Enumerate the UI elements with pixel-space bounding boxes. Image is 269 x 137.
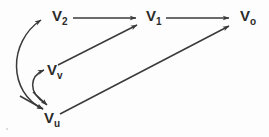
node-vu-base: V xyxy=(44,109,54,126)
edge-vu-to-v0 xyxy=(60,26,229,114)
node-vv-base: V xyxy=(47,61,57,78)
node-label-vv: Vv xyxy=(47,62,63,77)
node-label-vu: Vu xyxy=(44,110,60,125)
node-label-v0: Vo xyxy=(240,8,256,23)
edge-vv-to-vu-curve xyxy=(33,70,46,104)
diagram-canvas: V2 V1 Vo Vv Vu xyxy=(0,0,269,137)
scan-speck xyxy=(6,128,8,130)
node-v1-base: V xyxy=(146,7,156,24)
edge-vv-to-v1 xyxy=(58,25,137,65)
node-label-v1: V1 xyxy=(146,8,162,23)
graph-edges-layer xyxy=(0,0,269,137)
node-v2-base: V xyxy=(52,7,62,24)
node-label-v2: V2 xyxy=(52,8,68,23)
node-vu-subscript: u xyxy=(54,118,60,129)
node-v1-subscript: 1 xyxy=(156,16,162,27)
node-v0-base: V xyxy=(240,7,250,24)
node-v0-subscript: o xyxy=(250,16,256,27)
node-v2-subscript: 2 xyxy=(62,16,68,27)
node-vv-subscript: v xyxy=(57,70,63,81)
edge-vu-to-vv-arrowhead-down xyxy=(33,92,47,105)
